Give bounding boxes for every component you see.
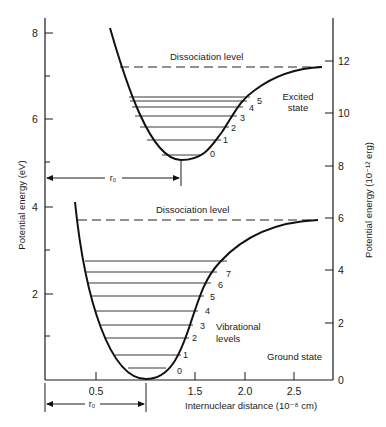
- excited-r0-label: r₀: [110, 173, 117, 183]
- right-axis-label: Potential energy (10⁻¹² erg): [363, 142, 374, 258]
- ground-level-6: 6: [218, 280, 223, 290]
- ground-level-1: 1: [183, 350, 188, 360]
- right-tick-2: 2: [338, 317, 344, 329]
- ground-level-7: 7: [226, 269, 231, 279]
- right-axis: 12 10 8 6 4 2 0 Potential energy (10⁻¹² …: [325, 18, 374, 386]
- left-tick-8: 8: [32, 27, 38, 39]
- x-tick-2-5: 2.5: [287, 385, 302, 397]
- x-axis-label: Internuclear distance (10⁻⁸ cm): [185, 400, 317, 411]
- ground-level-5: 5: [210, 292, 215, 302]
- excited-level-3: 3: [240, 113, 245, 123]
- left-tick-2: 2: [32, 288, 38, 300]
- excited-state-curve-group: Dissociation level 0 1 2 3 4 5 Excited s…: [46, 28, 322, 186]
- right-tick-6: 6: [338, 212, 344, 224]
- x-tick-1-5: 1.5: [188, 385, 203, 397]
- potential-energy-diagram: 8 6 4 2 Potential energy (eV) 12 10 8 6 …: [0, 0, 386, 427]
- arrow-right-icon: [173, 175, 180, 181]
- excited-state-label-1: Excited: [282, 91, 313, 102]
- left-tick-6: 6: [32, 113, 38, 125]
- arrow-left-icon: [46, 175, 53, 181]
- x-tick-2-0: 2.0: [238, 385, 253, 397]
- vibrational-label-2: levels: [216, 333, 241, 344]
- ground-level-4: 4: [205, 306, 210, 316]
- ground-r0-label: r₀: [89, 399, 96, 409]
- ground-level-0: 0: [177, 366, 182, 376]
- excited-level-0: 0: [210, 149, 215, 159]
- left-tick-4: 4: [32, 201, 38, 213]
- left-axis-label: Potential energy (eV): [16, 160, 27, 249]
- excited-state-label-2: state: [288, 102, 309, 113]
- right-tick-10: 10: [338, 107, 350, 119]
- right-tick-4: 4: [338, 264, 344, 276]
- ground-dissociation-label: Dissociation level: [156, 204, 229, 215]
- right-tick-8: 8: [338, 160, 344, 172]
- right-tick-12: 12: [338, 55, 350, 67]
- excited-level-5: 5: [257, 96, 262, 106]
- right-tick-0: 0: [338, 374, 344, 386]
- arrow-left-icon: [46, 401, 53, 407]
- excited-level-2: 2: [231, 123, 236, 133]
- ground-state-label: Ground state: [267, 351, 322, 362]
- excited-level-1: 1: [223, 135, 228, 145]
- ground-level-2: 2: [192, 333, 197, 343]
- ground-level-3: 3: [200, 321, 205, 331]
- arrow-right-icon: [138, 401, 145, 407]
- excited-dissociation-label: Dissociation level: [170, 51, 243, 62]
- vibrational-label-1: Vibrational: [216, 321, 261, 332]
- x-tick-0-5: 0.5: [89, 385, 104, 397]
- left-axis: 8 6 4 2 Potential energy (eV): [16, 18, 53, 380]
- excited-level-4: 4: [249, 103, 254, 113]
